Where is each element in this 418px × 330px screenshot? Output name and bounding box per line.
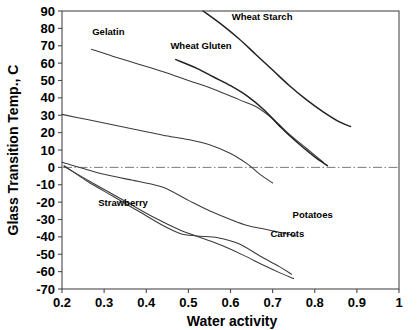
x-tick-label: 0.3	[95, 295, 113, 310]
series-line-unlabeled-mid-curve	[62, 114, 273, 183]
series-label-gelatin: Gelatin	[92, 26, 124, 37]
x-tick-label: 1	[395, 295, 402, 310]
y-tick-label: 20	[41, 125, 55, 140]
plot-frame	[62, 11, 399, 289]
series-line-gelatin	[91, 49, 323, 162]
series-label-strawberry: Strawberry	[98, 197, 148, 208]
y-tick-label: 0	[48, 160, 55, 175]
y-tick-label: -20	[36, 195, 55, 210]
y-tick-label: -50	[36, 247, 55, 262]
x-tick-label: 0.4	[137, 295, 156, 310]
y-tick-label: -30	[36, 212, 55, 227]
y-tick-label: 50	[41, 73, 55, 88]
data-series-labels: GelatinWheat GlutenWheat StarchPotatoesS…	[92, 11, 332, 239]
chart-container: 9080706050403020100-10-20-30-40-50-60-70…	[0, 0, 418, 330]
series-line-strawberry	[64, 166, 291, 275]
x-axis-ticks: 0.20.30.40.50.60.70.80.91	[53, 289, 403, 310]
y-axis-ticks: 9080706050403020100-10-20-30-40-50-60-70	[36, 4, 62, 297]
y-tick-label: -60	[36, 264, 55, 279]
y-tick-label: 30	[41, 108, 55, 123]
x-tick-label: 0.2	[53, 295, 71, 310]
series-line-carrots	[64, 167, 294, 279]
series-label-wheat-gluten: Wheat Gluten	[170, 40, 231, 51]
series-line-wheat-gluten	[176, 60, 328, 166]
series-label-carrots: Carrots	[270, 228, 304, 239]
x-tick-label: 0.5	[179, 295, 197, 310]
x-axis-title: Water activity	[187, 313, 278, 329]
y-tick-label: 40	[41, 90, 55, 105]
x-tick-label: 0.9	[348, 295, 366, 310]
series-label-potatoes: Potatoes	[293, 209, 333, 220]
series-line-potatoes	[62, 162, 296, 236]
y-tick-label: 60	[41, 56, 55, 71]
series-line-wheat-starch	[203, 11, 350, 127]
x-tick-label: 0.8	[306, 295, 324, 310]
x-tick-label: 0.7	[264, 295, 282, 310]
y-tick-label: 70	[41, 38, 55, 53]
y-tick-label: 90	[41, 4, 55, 19]
x-tick-label: 0.6	[221, 295, 239, 310]
series-label-wheat-starch: Wheat Starch	[232, 11, 293, 22]
y-tick-label: 80	[41, 21, 55, 36]
plot-frame-rect	[62, 11, 399, 289]
y-axis-title: Glass Transition Temp., C	[5, 65, 21, 236]
glass-transition-temperature-chart: 9080706050403020100-10-20-30-40-50-60-70…	[0, 0, 418, 330]
y-tick-label: -40	[36, 229, 55, 244]
y-tick-label: -10	[36, 177, 55, 192]
y-tick-label: 10	[41, 143, 55, 158]
